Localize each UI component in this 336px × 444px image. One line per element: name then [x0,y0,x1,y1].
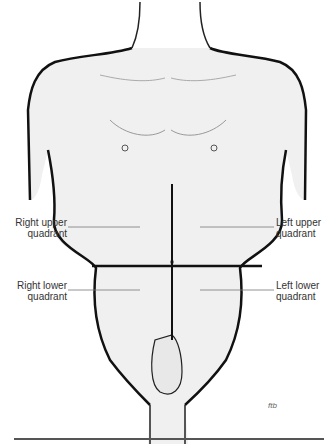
torso-quadrant-diagram: Right upper quadrant Left upper quadrant… [0,0,336,444]
label-left-lower-quadrant: Left lower quadrant [276,280,336,302]
artist-signature: ftb [268,400,277,411]
label-line: quadrant [4,228,67,239]
label-line: Left upper [276,217,336,228]
label-line: Left lower [276,280,336,291]
label-line: quadrant [4,291,67,302]
label-line: Right upper [4,217,67,228]
label-line: quadrant [276,228,336,239]
label-right-lower-quadrant: Right lower quadrant [4,280,67,302]
bottom-rule [14,438,324,440]
label-right-upper-quadrant: Right upper quadrant [4,217,67,239]
label-left-upper-quadrant: Left upper quadrant [276,217,336,239]
label-line: quadrant [276,291,336,302]
label-line: Right lower [4,280,67,291]
